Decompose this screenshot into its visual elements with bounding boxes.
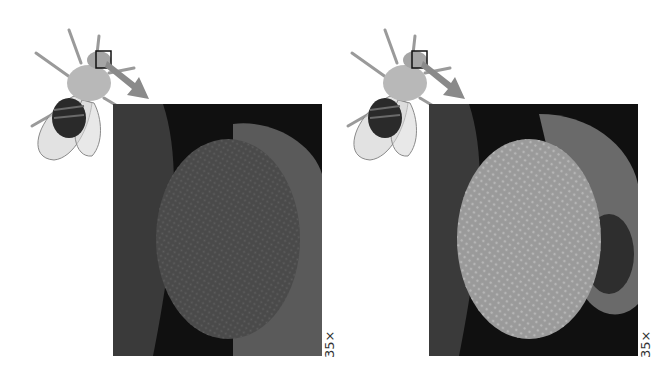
eye-micrograph [429, 104, 638, 356]
eye-micrograph [113, 104, 322, 356]
figure-right: 35× [316, 0, 650, 382]
arrow-icon [105, 55, 155, 103]
figure-left: 35× [0, 0, 334, 382]
magnification-label: 35× [638, 331, 653, 358]
arrow-icon [421, 55, 471, 103]
eye-image [429, 104, 638, 356]
eye-image [113, 104, 322, 356]
